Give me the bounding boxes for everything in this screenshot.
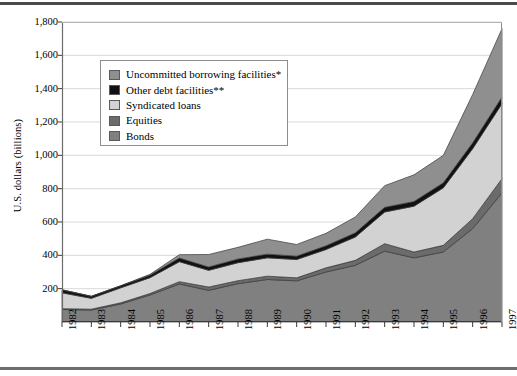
legend-item: Equities xyxy=(109,113,279,128)
legend-item-label: Other debt facilities** xyxy=(126,85,224,96)
legend-item-label: Uncommitted borrowing facilities* xyxy=(126,69,281,80)
legend-item: Syndicated loans xyxy=(109,98,279,113)
x-axis-tick-label: 1994 xyxy=(419,309,430,330)
figure-container: U.S. dollars (billions) 1,8001,6001,4001… xyxy=(0,0,517,376)
x-axis-tick-label: 1991 xyxy=(331,309,342,330)
legend-swatch-icon xyxy=(109,116,120,126)
x-axis-tick-label: 1990 xyxy=(302,309,313,330)
legend-item-label: Equities xyxy=(126,115,162,126)
x-axis-tick-label: 1986 xyxy=(184,309,195,330)
x-axis-tick-label: 1983 xyxy=(96,309,107,330)
legend-item: Uncommitted borrowing facilities* xyxy=(109,67,279,82)
legend-swatch-icon xyxy=(109,100,120,110)
x-axis-tick-label: 1982 xyxy=(67,309,78,330)
legend-item-label: Bonds xyxy=(126,131,154,142)
legend-swatch-icon xyxy=(109,85,120,95)
legend-item: Other debt facilities** xyxy=(109,82,279,97)
x-axis-tick-label: 1995 xyxy=(448,309,459,330)
legend-swatch-icon xyxy=(109,70,120,80)
x-axis-tick-labels: 1982198319841985198619871988198919901991… xyxy=(0,0,517,376)
x-axis-tick-label: 1997 xyxy=(507,309,517,330)
x-axis-tick-label: 1996 xyxy=(478,309,489,330)
legend-item-label: Syndicated loans xyxy=(126,100,201,111)
x-axis-tick-label: 1985 xyxy=(155,309,166,330)
x-axis-tick-label: 1988 xyxy=(243,309,254,330)
x-axis-tick-label: 1992 xyxy=(360,309,371,330)
x-axis-tick-label: 1989 xyxy=(272,309,283,330)
chart-legend: Uncommitted borrowing facilities*Other d… xyxy=(100,60,288,146)
x-axis-tick-label: 1984 xyxy=(126,309,137,330)
x-axis-tick-label: 1993 xyxy=(390,309,401,330)
x-axis-tick-label: 1987 xyxy=(214,309,225,330)
legend-item: Bonds xyxy=(109,129,279,144)
legend-swatch-icon xyxy=(109,131,120,141)
